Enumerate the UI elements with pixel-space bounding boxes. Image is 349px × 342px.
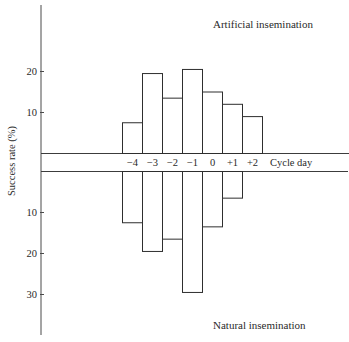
bar-artificial (143, 74, 163, 154)
y-tick-label: 20 (27, 248, 38, 259)
y-tick-label: 30 (27, 289, 38, 300)
bar-natural (143, 172, 163, 252)
bar-natural (163, 172, 183, 240)
bar-natural (223, 172, 243, 199)
x-axis-title: Cycle day (270, 157, 313, 168)
natural-insemination-bars (123, 172, 243, 293)
cycle-day-label: +2 (247, 157, 258, 168)
y-tick-label: 10 (27, 107, 38, 118)
y-tick-label: 20 (27, 66, 38, 77)
bar-artificial (123, 123, 143, 154)
cycle-day-label: −4 (127, 157, 139, 168)
cycle-day-label: −1 (187, 157, 198, 168)
bar-artificial (203, 92, 223, 154)
bar-natural (203, 172, 223, 227)
upper-panel-label: Artificial insemination (213, 18, 313, 30)
bar-artificial (163, 98, 183, 153)
bar-natural (183, 172, 203, 293)
cycle-day-label: −3 (147, 157, 158, 168)
cycle-day-label: 0 (210, 157, 215, 168)
bar-artificial (243, 117, 263, 154)
cycle-day-label: +1 (227, 157, 238, 168)
lower-panel-label: Natural insemination (213, 319, 306, 331)
bar-artificial (223, 104, 243, 153)
mirrored-bar-chart: 1020 102030 −4−3−2−10+1+2 Cycle day Arti… (0, 0, 349, 342)
bar-artificial (183, 69, 203, 153)
cycle-day-labels: −4−3−2−10+1+2 (127, 157, 258, 168)
y-tick-label: 10 (27, 207, 38, 218)
bar-natural (123, 172, 143, 223)
y-axis-title: Success rate (%) (6, 126, 18, 196)
cycle-day-label: −2 (167, 157, 178, 168)
artificial-insemination-bars (123, 69, 263, 153)
